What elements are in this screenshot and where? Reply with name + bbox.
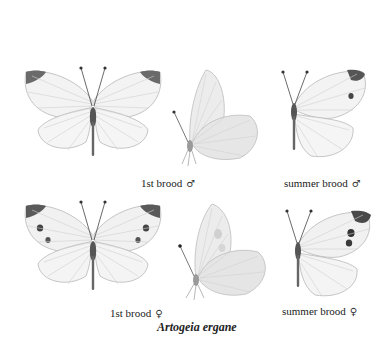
caption-summer-brood-female: summer brood♀ xyxy=(282,305,357,317)
male-symbol-icon: ♂ xyxy=(352,178,361,189)
butterfly-summer-brood-female xyxy=(283,207,378,302)
female-symbol-icon: ♀ xyxy=(350,306,357,317)
caption-text: summer brood xyxy=(284,177,348,189)
butterfly-1st-brood-female-underside xyxy=(172,200,272,305)
butterfly-summer-brood-male xyxy=(277,66,372,166)
caption-text: 1st brood xyxy=(110,307,151,319)
caption-summer-brood-male: summer brood♂ xyxy=(284,177,361,189)
male-symbol-icon: ♂ xyxy=(186,178,195,189)
caption-1st-brood-female: 1st brood♀ xyxy=(110,307,163,319)
caption-text: 1st brood xyxy=(141,177,182,189)
species-plate: 1st brood♂ summer brood♂ xyxy=(0,0,385,342)
butterfly-1st-brood-female-upperside xyxy=(18,196,168,296)
species-name: Artogeia ergane xyxy=(157,320,237,335)
caption-text: summer brood xyxy=(282,305,346,317)
caption-1st-brood-male: 1st brood♂ xyxy=(141,177,195,189)
butterfly-1st-brood-male-upperside xyxy=(18,62,168,162)
butterfly-1st-brood-male-underside xyxy=(170,66,265,171)
female-symbol-icon: ♀ xyxy=(155,308,162,319)
